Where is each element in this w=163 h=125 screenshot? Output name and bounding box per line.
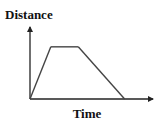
line-segment-1 xyxy=(30,47,51,99)
y-axis-label: Distance xyxy=(5,7,53,22)
x-axis-label: Time xyxy=(73,106,102,121)
line-segment-3 xyxy=(78,47,124,99)
distance-time-graph: Distance Time xyxy=(0,0,163,125)
